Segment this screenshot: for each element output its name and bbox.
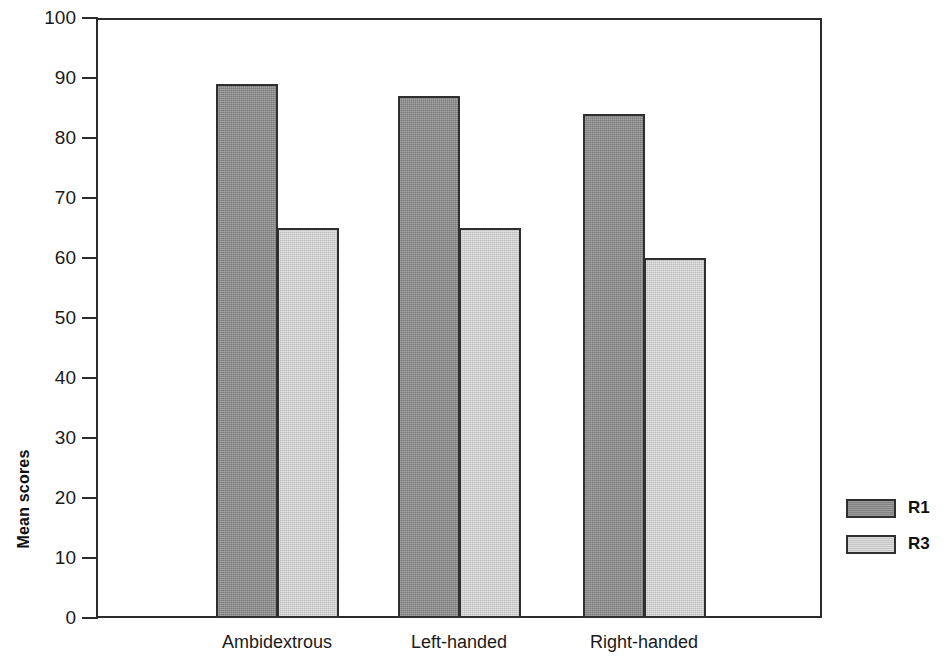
y-axis-tick-label: 20 (10, 488, 76, 507)
y-axis-tick-label: 40 (10, 368, 76, 387)
y-axis-tick-label: 70 (10, 188, 76, 207)
y-axis-tick (82, 17, 98, 19)
x-axis-label-left-handed: Left-handed (359, 632, 559, 652)
y-axis-tick-label: 50 (10, 308, 76, 327)
plot-area (96, 18, 822, 618)
legend-swatch-r1 (846, 499, 896, 518)
y-axis-tick-label: 0 (10, 608, 76, 627)
y-axis-tick-label: 10 (10, 548, 76, 567)
y-axis-tick-label: 100 (10, 8, 76, 27)
y-axis-tick (82, 557, 98, 559)
y-axis-tick (82, 197, 98, 199)
legend-label-r3: R3 (908, 533, 930, 555)
bar-chart: Mean scores 0102030405060708090100 Ambid… (0, 0, 951, 663)
y-axis-tick (82, 77, 98, 79)
y-axis-tick (82, 377, 98, 379)
legend-label-r1: R1 (908, 497, 930, 519)
y-axis-tick (82, 257, 98, 259)
y-axis-tick-label: 80 (10, 128, 76, 147)
y-axis-tick (82, 137, 98, 139)
y-axis-tick (82, 437, 98, 439)
y-axis-tick (82, 497, 98, 499)
y-axis-tick (82, 317, 98, 319)
x-axis-label-ambidextrous: Ambidextrous (177, 632, 377, 652)
y-axis-tick-label: 90 (10, 68, 76, 87)
y-axis-tick (82, 617, 98, 619)
y-axis-tick-label: 60 (10, 248, 76, 267)
legend-swatch-r3 (846, 535, 896, 554)
y-axis-tick-label: 30 (10, 428, 76, 447)
x-axis-label-right-handed: Right-handed (544, 632, 744, 652)
